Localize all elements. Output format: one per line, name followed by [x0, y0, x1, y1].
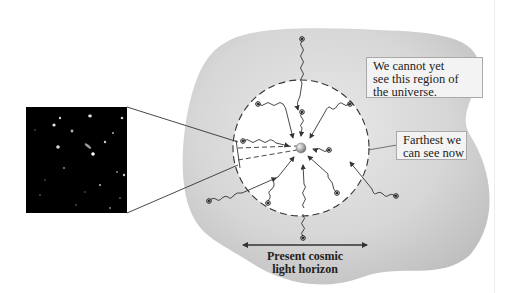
observer-earth [296, 143, 306, 153]
label-line: light horizon [245, 263, 365, 276]
farthest-visible-label: Farthest we can see now [396, 131, 467, 160]
page-edge-divider [494, 0, 495, 293]
label-line: the universe. [373, 86, 477, 99]
unobservable-region-label: We cannot yet see this region of the uni… [366, 57, 483, 98]
deep-field-image [26, 107, 127, 213]
label-line: can see now [403, 147, 461, 160]
horizon-label: Present cosmic light horizon [245, 250, 365, 276]
